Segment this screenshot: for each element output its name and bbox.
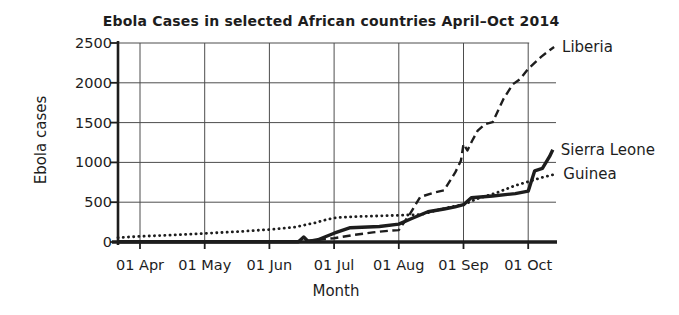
y-tick-label: 500: [84, 194, 112, 210]
y-tick-label: 1000: [75, 154, 112, 170]
x-tick-label: 01 Jun: [247, 257, 293, 273]
x-tick-label: 01 May: [178, 257, 231, 273]
x-tick-label: 01 Oct: [504, 257, 552, 273]
x-tick-label: 01 Apr: [116, 257, 164, 273]
ebola-chart-figure: Ebola Cases in selected African countrie…: [0, 0, 679, 315]
x-tick-label: 01 Sep: [438, 257, 488, 273]
series-label-sierra-leone: Sierra Leone: [561, 141, 655, 159]
series-line-liberia: [118, 47, 554, 242]
series-label-guinea: Guinea: [563, 165, 616, 183]
x-tick-label: 01 Jul: [314, 257, 355, 273]
line-chart-plot: 0500100015002000250001 Apr01 May01 Jun01…: [0, 0, 679, 315]
x-tick-label: 01 Aug: [373, 257, 424, 273]
y-tick-label: 2000: [75, 75, 112, 91]
series-line-guinea: [118, 174, 555, 237]
series-label-liberia: Liberia: [562, 38, 613, 56]
y-tick-label: 1500: [75, 115, 112, 131]
y-tick-label: 0: [103, 234, 112, 250]
y-tick-label: 2500: [75, 35, 112, 51]
